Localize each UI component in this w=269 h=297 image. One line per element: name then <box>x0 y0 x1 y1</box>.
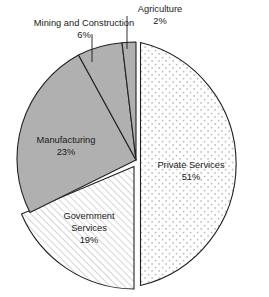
pie-chart-canvas: Agriculture 2% Mining and Construction 6… <box>0 0 269 297</box>
slice-percent-agriculture: 2% <box>153 16 166 26</box>
slice-percent-private-services: 51% <box>182 172 201 182</box>
pie-chart: Agriculture 2% Mining and Construction 6… <box>0 0 269 297</box>
slice-label-mining-and-construction: Mining and Construction <box>34 18 134 28</box>
slice-label-government-services-line1: Government <box>63 211 115 221</box>
slice-percent-mining-and-construction: 6% <box>77 30 90 40</box>
slice-percent-manufacturing: 23% <box>57 147 76 157</box>
slice-label-manufacturing: Manufacturing <box>37 135 96 145</box>
slice-label-government-services-line2: Services <box>71 223 107 233</box>
slice-label-agriculture: Agriculture <box>138 4 182 14</box>
slice-percent-government-services: 19% <box>80 235 99 245</box>
slice-label-private-services: Private Services <box>157 160 225 170</box>
